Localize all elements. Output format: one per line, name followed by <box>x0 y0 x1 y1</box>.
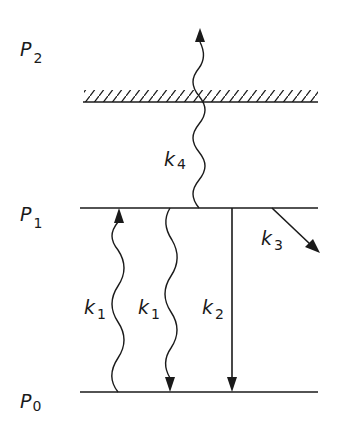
transition-label-k1-down: k1 <box>138 296 160 322</box>
transition-label-k4: k4 <box>164 148 186 172</box>
level-p2-continuum <box>83 90 318 102</box>
transition-k2-arrow <box>227 208 237 392</box>
transition-label-k2: k2 <box>202 296 224 322</box>
level-label-p2: P2 <box>20 38 42 66</box>
transition-k4-arrow <box>193 28 205 208</box>
level-label-p0: P0 <box>20 390 41 414</box>
level-label-p1: P1 <box>20 203 42 231</box>
transition-label-k1-up: k1 <box>84 296 106 322</box>
transition-label-k3: k3 <box>261 227 283 253</box>
energy-level-diagram: P2 P1 P0 k4 k1 k1 k2 k3 <box>0 0 337 427</box>
transition-k1-down-arrow <box>165 208 177 392</box>
transition-k1-up-arrow <box>112 208 124 392</box>
